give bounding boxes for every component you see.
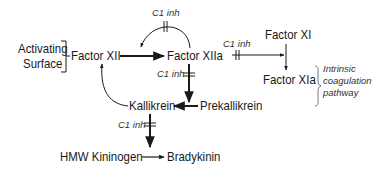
inhibitor-label-xiia-to-prekallikrein: C1 inh [157,69,184,79]
node-factor-xiia: Factor XIIa [167,49,223,62]
node-factor-xii: Factor XII [71,49,121,62]
node-factor-xia: Factor XIa [263,73,316,86]
pathway-note-line2: coagulation [323,76,372,86]
inhibitor-label-xiia-to-xi: C1 inh [223,39,250,49]
pathway-note-line1: Intrinsic [323,64,356,74]
inhibitor-label-kallikrein-to-kininogen: C1 inh [118,120,145,130]
node-bradykinin: Bradykinin [167,150,220,163]
node-hmw-kininogen: HMW Kininogen [60,150,143,163]
arrow-xiia-to-xii-loop [141,27,190,48]
node-activating-surface-line1: Activating [18,42,68,55]
node-kallikrein: Kallikrein [129,99,175,112]
node-factor-xi: Factor XI [265,28,311,41]
arrow-kallikrein-to-xii [102,64,128,106]
pathway-bracket [315,66,321,106]
pathway-note-line3: pathway [323,88,358,98]
node-activating-surface-line2: Surface [23,57,62,70]
node-prekallikrein: Prekallikrein [200,99,262,112]
inhibitor-label-top-loop: C1 inh [152,8,179,18]
